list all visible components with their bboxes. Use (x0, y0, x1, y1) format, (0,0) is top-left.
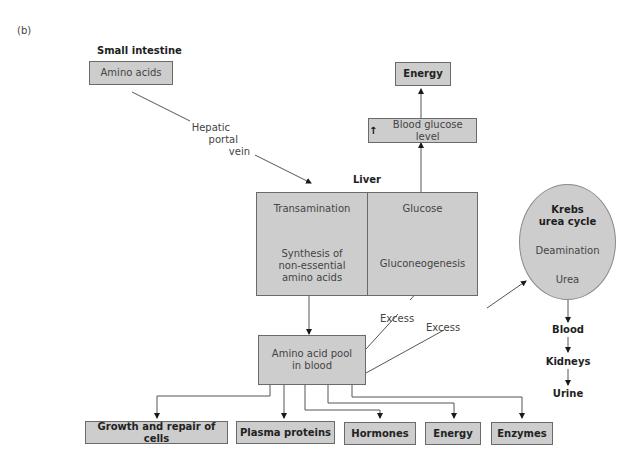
amino-acids-label: Amino acids (101, 67, 162, 79)
krebs-heading-line1: Krebs (519, 204, 616, 216)
amino-acid-metabolism-diagram: (b) Small intestine Amino acids Hepatic … (0, 0, 643, 464)
pool-to-enzymes-line (352, 384, 522, 418)
synthesis-line3: amino acids (256, 272, 368, 284)
urea-label: Urea (519, 274, 616, 286)
blood-glucose-label: Blood glucose level (379, 119, 476, 143)
output-enzymes-label: Enzymes (497, 428, 546, 440)
figure-label: (b) (17, 25, 31, 37)
amino-acid-pool-box: Amino acid pool in blood (258, 335, 366, 385)
amino-acids-box: Amino acids (89, 61, 173, 85)
output-growth-repair-label: Growth and repair of cells (86, 421, 227, 445)
vein-label: vein (210, 146, 250, 158)
blood-label: Blood (538, 324, 598, 336)
glucose-label: Glucose (367, 203, 478, 215)
pool-to-hormones-line (305, 384, 380, 418)
pool-line1: Amino acid pool (272, 348, 352, 360)
pool-to-growth-line (157, 384, 270, 418)
output-energy-box: Energy (425, 422, 481, 445)
pool-line2: in blood (292, 360, 332, 372)
output-plasma-proteins-label: Plasma proteins (240, 427, 331, 439)
synthesis-line1: Synthesis of (256, 248, 368, 260)
liver-heading: Liver (353, 174, 381, 186)
deamination-label: Deamination (519, 245, 616, 257)
output-growth-repair-box: Growth and repair of cells (85, 421, 228, 444)
urine-label: Urine (538, 388, 598, 400)
hepatic-label: Hepatic (190, 122, 230, 134)
transamination-label: Transamination (256, 203, 368, 215)
output-enzymes-box: Enzymes (491, 422, 553, 445)
output-hormones-label: Hormones (351, 428, 408, 440)
hepatic-portal-line-a (132, 92, 190, 121)
synthesis-line2: non-essential (256, 260, 368, 272)
output-energy-label: Energy (433, 428, 472, 440)
gluconeogenesis-label: Gluconeogenesis (367, 258, 478, 270)
kidneys-label: Kidneys (538, 356, 598, 368)
energy-top-label: Energy (403, 68, 442, 80)
output-hormones-box: Hormones (344, 422, 416, 445)
blood-glucose-box: ↑ Blood glucose level (368, 118, 477, 143)
excess-label-krebs: Excess (426, 322, 460, 334)
small-intestine-heading: Small intestine (97, 45, 182, 57)
energy-box-top: Energy (395, 62, 451, 86)
pool-to-energy-line (328, 384, 454, 418)
hepatic-portal-line-b (255, 155, 311, 183)
excess-label-gluconeogenesis: Excess (380, 313, 414, 325)
krebs-heading-line2: urea cycle (519, 216, 616, 228)
output-plasma-proteins-box: Plasma proteins (236, 421, 335, 444)
portal-label: portal (200, 134, 238, 146)
increase-arrow-icon: ↑ (369, 125, 377, 137)
